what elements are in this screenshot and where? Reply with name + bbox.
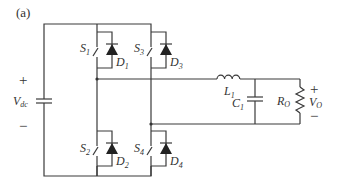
source-minus: − xyxy=(19,118,27,134)
dc-source-capacitor xyxy=(36,99,52,103)
s4-label: S4 xyxy=(134,141,144,157)
switch-s1 xyxy=(93,32,118,80)
switch-s3 xyxy=(147,32,172,124)
d1-label: D1 xyxy=(115,55,129,71)
output-minus: − xyxy=(310,108,318,124)
resistor-ro-icon xyxy=(296,79,304,124)
s2-label: S2 xyxy=(80,141,90,157)
capacitor-c1-icon xyxy=(247,79,263,124)
switch-s4 xyxy=(147,124,172,176)
diode-d1-icon xyxy=(106,44,118,55)
d2-label: D2 xyxy=(115,154,129,170)
diode-d4-icon xyxy=(160,143,172,154)
output-wires xyxy=(95,77,300,125)
d4-label: D4 xyxy=(169,154,183,170)
circuit-diagram: (a) + Vdc − S1 D1 S2 D2 xyxy=(0,0,340,191)
panel-label: (a) xyxy=(16,5,30,20)
d3-label: D3 xyxy=(169,55,183,71)
s3-label: S3 xyxy=(134,41,144,57)
s1-label: S1 xyxy=(80,41,90,57)
diode-d3-icon xyxy=(160,44,172,55)
ro-label: RO xyxy=(276,94,290,109)
source-plus: + xyxy=(19,72,27,88)
source-label: Vdc xyxy=(13,94,28,109)
c1-label: C1 xyxy=(232,96,244,112)
switch-s2 xyxy=(93,80,118,176)
diode-d2-icon xyxy=(106,143,118,154)
inductor-l1-icon xyxy=(217,75,240,79)
